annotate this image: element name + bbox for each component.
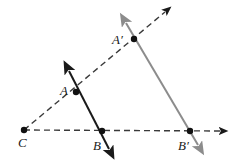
geometry-diagram: C A B A′ B′ bbox=[0, 0, 239, 163]
label-point-A-prime: A′ bbox=[111, 32, 123, 47]
label-point-A: A bbox=[59, 83, 68, 98]
point-B bbox=[99, 128, 105, 134]
dashed-ray-through-A-and-A-prime bbox=[24, 12, 165, 130]
solid-line-AB-preimage bbox=[69, 71, 109, 149]
point-C bbox=[21, 127, 27, 133]
label-point-B-prime: B′ bbox=[178, 138, 189, 153]
point-B-prime bbox=[187, 128, 193, 134]
diagram-canvas: C A B A′ B′ bbox=[0, 0, 239, 163]
label-point-B: B bbox=[93, 138, 101, 153]
label-point-C: C bbox=[18, 135, 27, 150]
point-A bbox=[73, 89, 79, 95]
point-A-prime bbox=[131, 36, 137, 42]
solid-line-A-prime-B-prime-image bbox=[126, 23, 198, 145]
